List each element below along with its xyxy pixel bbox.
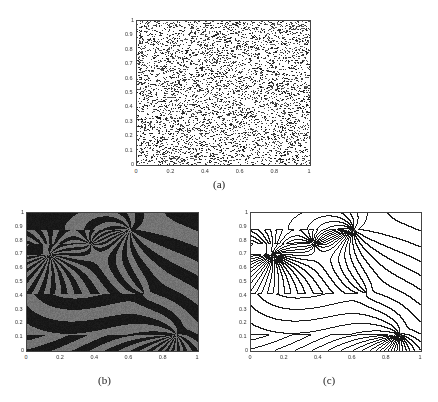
y-tick-label: 0.1 bbox=[15, 333, 23, 339]
plot-c-contour-lines bbox=[250, 212, 422, 352]
x-tick-label: 0.2 bbox=[167, 168, 175, 174]
y-tick-label: 0.7 bbox=[239, 250, 247, 256]
y-tick-label: 0.9 bbox=[15, 223, 23, 229]
y-tick-label: 0.5 bbox=[239, 278, 247, 284]
y-tick-label: 0.2 bbox=[239, 319, 247, 325]
y-tick-label: 0.8 bbox=[239, 237, 247, 243]
x-tick-label: 0.6 bbox=[125, 354, 133, 360]
x-tick-label: 0.6 bbox=[348, 354, 356, 360]
y-tick-label: 0.9 bbox=[125, 31, 133, 37]
x-tick-label: 1 bbox=[419, 354, 422, 360]
y-tick-label: 0 bbox=[21, 347, 24, 353]
y-tick-label: 0.7 bbox=[15, 250, 23, 256]
y-tick-label: 1 bbox=[131, 17, 134, 23]
y-tick-label: 1 bbox=[245, 209, 248, 215]
y-tick-label: 0.7 bbox=[125, 60, 133, 66]
y-tick-label: 0.8 bbox=[15, 237, 23, 243]
x-tick-label: 0.8 bbox=[270, 168, 278, 174]
y-tick-label: 0.6 bbox=[239, 264, 247, 270]
x-tick-label: 1 bbox=[308, 168, 311, 174]
x-tick-label: 0.4 bbox=[201, 168, 209, 174]
x-tick-label: 0.4 bbox=[90, 354, 98, 360]
x-tick-label: 0.2 bbox=[280, 354, 288, 360]
y-tick-label: 0.6 bbox=[15, 264, 23, 270]
y-tick-label: 0 bbox=[131, 161, 134, 167]
y-tick-label: 0.2 bbox=[15, 319, 23, 325]
y-tick-label: 0.9 bbox=[239, 223, 247, 229]
contour-canvas bbox=[251, 213, 421, 351]
x-tick-label: 0.6 bbox=[236, 168, 244, 174]
x-tick-label: 0 bbox=[249, 354, 252, 360]
y-tick-label: 0.8 bbox=[125, 46, 133, 52]
dots-canvas bbox=[137, 21, 310, 165]
x-tick-label: 0.8 bbox=[382, 354, 390, 360]
x-tick-label: 0.8 bbox=[159, 354, 167, 360]
caption-a: (a) bbox=[213, 178, 225, 190]
y-tick-label: 0.1 bbox=[125, 147, 133, 153]
caption-c: (c) bbox=[323, 374, 335, 386]
x-tick-label: 0 bbox=[25, 354, 28, 360]
y-tick-label: 0.3 bbox=[15, 306, 23, 312]
y-tick-label: 0.6 bbox=[125, 75, 133, 81]
x-tick-label: 0 bbox=[135, 168, 138, 174]
x-tick-label: 0.2 bbox=[56, 354, 64, 360]
caption-b: (b) bbox=[98, 374, 111, 386]
stripe-canvas bbox=[27, 213, 198, 351]
y-tick-label: 0.3 bbox=[239, 306, 247, 312]
x-tick-label: 0.4 bbox=[314, 354, 322, 360]
y-tick-label: 0.4 bbox=[15, 292, 23, 298]
x-tick-label: 1 bbox=[196, 354, 199, 360]
plot-b-stripe-pattern bbox=[26, 212, 199, 352]
y-tick-label: 0.5 bbox=[15, 278, 23, 284]
y-tick-label: 0.1 bbox=[239, 333, 247, 339]
y-tick-label: 0.5 bbox=[125, 89, 133, 95]
y-tick-label: 1 bbox=[21, 209, 24, 215]
y-tick-label: 0 bbox=[245, 347, 248, 353]
y-tick-label: 0.2 bbox=[125, 132, 133, 138]
y-tick-label: 0.3 bbox=[125, 118, 133, 124]
y-tick-label: 0.4 bbox=[125, 103, 133, 109]
plot-a-random-dots bbox=[136, 20, 311, 166]
y-tick-label: 0.4 bbox=[239, 292, 247, 298]
